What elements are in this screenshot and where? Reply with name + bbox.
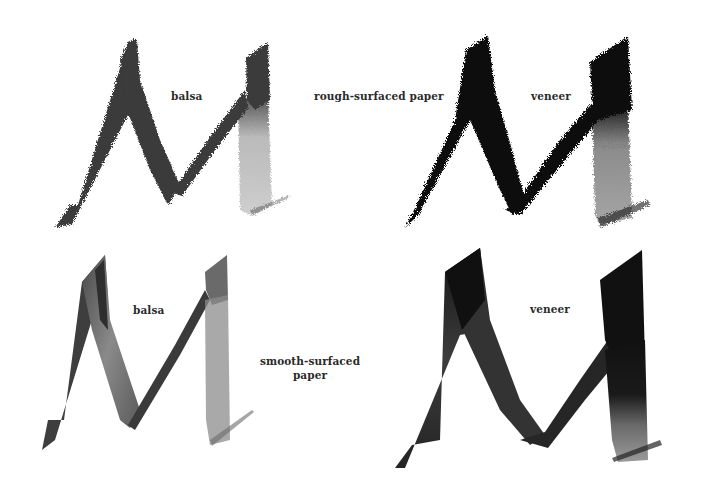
figure-stage: balsa rough-surfaced paper veneer balsa … — [0, 0, 713, 500]
label-veneer-top: veneer — [531, 89, 571, 103]
letter-m-balsa-rough — [55, 38, 290, 228]
label-balsa-top: balsa — [171, 89, 202, 103]
label-veneer-bottom: veneer — [530, 302, 570, 316]
label-balsa-bottom: balsa — [133, 303, 164, 317]
letter-m-balsa-smooth — [42, 255, 254, 450]
label-smooth-surfaced-paper: smooth-surfaced paper — [258, 354, 362, 382]
letter-m-veneer-smooth — [395, 248, 662, 468]
letter-m-veneer-rough — [405, 36, 650, 228]
label-smooth-surfaced-line1: smooth-surfaced — [258, 354, 362, 368]
brush-letters-canvas — [0, 0, 713, 500]
label-rough-surfaced-paper: rough-surfaced paper — [314, 89, 444, 103]
label-smooth-surfaced-line2: paper — [258, 368, 362, 382]
